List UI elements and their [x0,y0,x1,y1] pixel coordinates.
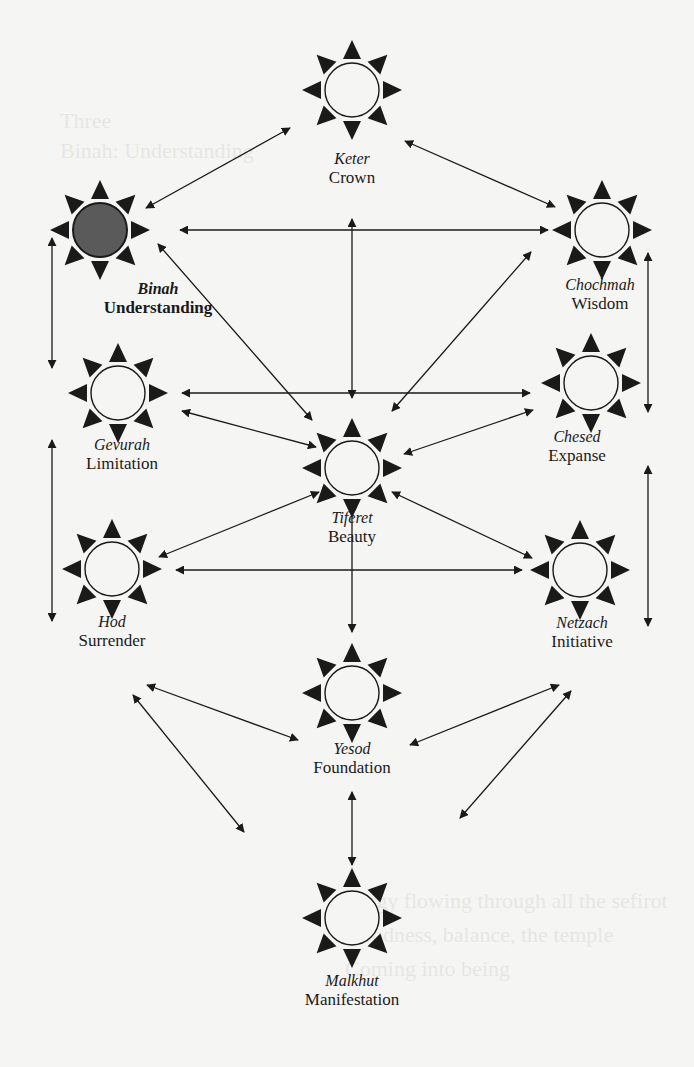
connection-arrow [405,141,555,207]
sun-ray-icon [343,121,361,140]
sun-ray-icon [343,418,361,437]
label-gevurah: GevurahLimitation [86,435,158,473]
sun-ray-icon [68,384,87,402]
sun-ray-icon [343,40,361,59]
sun-ray-icon [91,180,109,199]
hebrew-name: Yesod [313,739,390,758]
sun-ray-icon [593,180,611,199]
hebrew-name: Netzach [551,613,612,632]
english-name: Limitation [86,454,158,473]
english-name: Expanse [548,446,606,465]
sefirah-node-netzach [530,520,630,620]
hebrew-name: Chochmah [565,275,634,294]
sun-ray-icon [62,560,81,578]
sefirah-node-gevurah [68,343,168,443]
sun-ray-icon [571,520,589,539]
sun-ray-icon [582,333,600,352]
english-name: Initiative [551,632,612,651]
connection-arrow [146,128,290,208]
label-hod: HodSurrender [78,612,145,650]
english-name: Beauty [328,527,376,546]
circle-icon [325,891,379,945]
circle-icon [564,356,618,410]
sun-ray-icon [541,374,560,392]
hebrew-name: Malkhut [305,971,399,990]
sefirah-node-chochmah [552,180,652,280]
sun-ray-icon [383,684,402,702]
sefirah-node-keter [302,40,402,140]
connection-arrow [392,252,531,411]
connection-arrow [410,685,559,745]
english-name: Surrender [78,631,145,650]
sun-ray-icon [611,561,630,579]
hebrew-name: Binah [104,279,213,298]
connection-arrow [159,492,319,557]
sun-ray-icon [149,384,168,402]
sefirah-node-malkhut [302,868,402,968]
circle-icon [325,666,379,720]
sun-ray-icon [530,561,549,579]
sun-ray-icon [50,221,69,239]
label-netzach: NetzachInitiative [551,613,612,651]
sun-ray-icon [622,374,641,392]
sun-ray-icon [343,643,361,662]
sun-ray-icon [302,459,321,477]
sun-ray-icon [633,221,652,239]
label-keter: KeterCrown [329,149,375,187]
sefirah-node-yesod [302,643,402,743]
sun-ray-icon [91,261,109,280]
sun-ray-icon [302,684,321,702]
english-name: Crown [329,168,375,187]
sefirah-node-binah [50,180,150,280]
sun-ray-icon [343,868,361,887]
label-malkhut: MalkhutManifestation [305,971,399,1009]
label-tiferet: TiferetBeauty [328,508,376,546]
hebrew-name: Keter [329,149,375,168]
sun-ray-icon [302,81,321,99]
connection-arrow [460,691,571,818]
english-name: Understanding [104,298,213,317]
highlighted-circle-icon [73,203,127,257]
sun-ray-icon [143,560,162,578]
circle-icon [325,441,379,495]
sun-ray-icon [302,909,321,927]
hebrew-name: Chesed [548,427,606,446]
sefirah-node-tiferet [302,418,402,518]
circle-icon [85,542,139,596]
connection-arrow [147,685,298,740]
sun-ray-icon [343,949,361,968]
sefirah-node-chesed [541,333,641,433]
hebrew-name: Hod [78,612,145,631]
connection-arrow [133,695,244,832]
hebrew-name: Gevurah [86,435,158,454]
hebrew-name: Tiferet [328,508,376,527]
connection-arrow [182,411,316,447]
label-chesed: ChesedExpanse [548,427,606,465]
label-yesod: YesodFoundation [313,739,390,777]
circle-icon [325,63,379,117]
connection-arrow [404,410,533,454]
sun-ray-icon [383,459,402,477]
english-name: Wisdom [565,294,634,313]
english-name: Manifestation [305,990,399,1009]
label-chochmah: ChochmahWisdom [565,275,634,313]
sun-ray-icon [383,81,402,99]
circle-icon [575,203,629,257]
sun-ray-icon [103,519,121,538]
label-binah: BinahUnderstanding [104,279,213,317]
connection-arrow [392,492,532,558]
sun-ray-icon [131,221,150,239]
english-name: Foundation [313,758,390,777]
sun-ray-icon [383,909,402,927]
sun-ray-icon [552,221,571,239]
circle-icon [91,366,145,420]
sefirah-node-hod [62,519,162,619]
circle-icon [553,543,607,597]
sun-ray-icon [109,343,127,362]
